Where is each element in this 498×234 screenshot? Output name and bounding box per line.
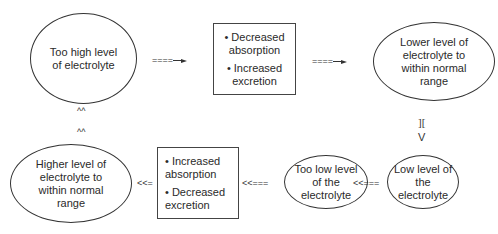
arrowhead-icon (181, 59, 187, 63)
arrow-down-head: V (418, 131, 425, 143)
arrow-up-1: ^^ (77, 106, 85, 116)
decrease-box: • Decreased absorption • Increased excre… (213, 23, 296, 95)
lower-level-node: Lower level of electrolyte to within nor… (373, 22, 495, 101)
arrow-up-2: ^^ (77, 127, 85, 137)
increase-box: • Increased absorption • Decreased excre… (157, 147, 239, 219)
low-level-label: Low level of the electrolyte (392, 163, 454, 202)
too-high-label: Too high level of electrolyte (49, 46, 119, 72)
too-low-label: Too low level of the electrolyte (293, 163, 359, 202)
increased-absorption: • Increased absorption (165, 155, 231, 181)
arrow-left-3: <<= (137, 178, 153, 188)
lower-level-label: Lower level of electrolyte to within nor… (391, 36, 477, 88)
low-level-node: Low level of the electrolyte (387, 155, 459, 209)
higher-level-node: Higher level of electrolyte to within no… (10, 144, 132, 223)
arrow-right-2: ==== (312, 56, 347, 66)
too-high-electrolyte-node: Too high level of electrolyte (30, 13, 137, 104)
arrow-down-shaft: ][ (418, 116, 425, 128)
too-low-node: Too low level of the electrolyte (284, 155, 368, 209)
arrow-right-1: ==== (152, 55, 187, 65)
higher-level-label: Higher level of electrolyte to within no… (28, 158, 114, 210)
arrow-left-2: <<=== (242, 178, 268, 188)
decreased-absorption: • Decreased absorption (222, 31, 288, 57)
increased-excretion: • Increased excretion (222, 62, 288, 88)
decreased-excretion: • Decreased excretion (165, 186, 231, 212)
arrowhead-icon (341, 60, 347, 64)
